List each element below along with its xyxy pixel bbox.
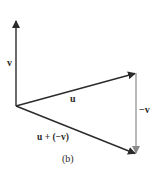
vector-sum-arrow	[16, 106, 135, 154]
vector-diagram: v u −v u + (−v) (b)	[0, 0, 156, 175]
label-sum: u + (−v)	[37, 132, 69, 143]
label-u: u	[70, 93, 76, 104]
label-neg-v: −v	[139, 104, 150, 115]
label-v: v	[7, 57, 12, 68]
caption: (b)	[62, 153, 74, 165]
